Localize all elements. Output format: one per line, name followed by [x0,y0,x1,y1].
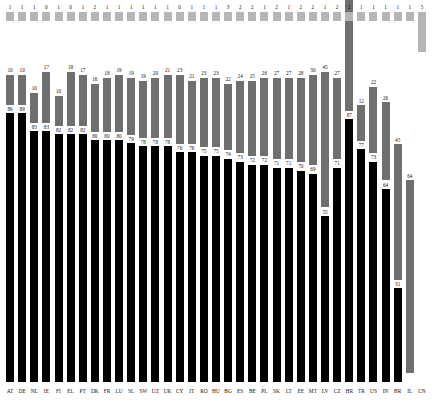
x-tick-label: BR [394,388,401,394]
bar-value-label-middle: 16 [92,77,97,82]
x-tick-label: CZ [334,388,341,394]
bar-value-label-top: 2 [275,5,278,10]
x-tick-label: NL [31,388,38,394]
x-tick-label: ES [237,388,243,394]
bar-value-label-top: 2 [312,5,315,10]
x-tick-label: SW [139,388,147,394]
bar-value-label-top: 1 [118,5,121,10]
bar-column: 74223 [224,0,232,382]
bar-value-label-middle: 21 [165,68,170,73]
x-tick-label: HR [346,388,354,394]
bar-segment-bottom [139,146,147,382]
x-tick-label: BE [249,388,256,394]
bar-segment-top [260,12,268,21]
bar-value-label-top: 2 [299,5,302,10]
x-tick-label: AT [7,388,14,394]
bar-value-label-middle: 28 [298,71,303,76]
bar-segment-bottom [127,143,135,382]
bar-value-label-bottom: 31 [395,282,400,287]
bar-value-label-bottom: 80 [104,134,109,139]
bar-segment-middle [30,93,38,123]
bar-value-label-top: 1 [384,5,387,10]
x-tick-label: CN [418,388,426,394]
bar-value-label-bottom: 73 [371,155,376,160]
bar-segment-top [103,12,111,21]
bar-segment-top [369,12,377,21]
x-tick-label: PL [261,388,267,394]
bar-segment-middle [248,81,256,157]
bar-value-label-top: 1 [215,5,218,10]
bar-value-label-bottom: 89 [20,107,25,112]
bar-segment-middle [273,78,281,160]
bar-value-label-middle: 27 [274,71,279,76]
bar-segment-bottom [18,113,26,382]
bar-segment-top [357,12,365,21]
bar-segment-bottom [67,134,75,382]
x-tick-label: SL [128,388,134,394]
bar-segment-top [79,12,87,21]
x-tick-label: RO [200,388,208,394]
bar-segment-bottom [79,134,87,382]
bar-value-label-middle: 19 [129,71,134,76]
bar-column: 55451 [321,0,329,382]
bar-column: 82171 [79,0,87,382]
x-tick-label: IN [383,388,389,394]
x-axis-tick-labels: ATDENLIEFIELPTDKFRLUSLSWUZUKCYITROHUBGES… [4,388,428,402]
bar-segment-bottom [6,113,14,382]
bar-value-label-bottom: 80 [116,134,121,139]
bar-segment-middle [91,84,99,132]
bar-segment-top [212,12,220,21]
bar-column: 89101 [18,0,26,382]
bar-segment-bottom [309,174,317,382]
x-tick-label: TR [358,388,365,394]
bar-value-label-top: 1 [21,5,24,10]
bar-segment-top [127,12,135,21]
x-tick-label: LT [286,388,292,394]
bar-value-label-middle: 25 [250,74,255,79]
bar-segment-middle [297,78,305,163]
bar-value-label-top: 1 [33,5,36,10]
bar-column: 76211 [188,0,196,382]
bar-segment-middle [42,72,50,123]
bar-segment-bottom [212,156,220,383]
bar-value-label-top: 1 [263,5,266,10]
x-tick-label: IL [407,388,412,394]
bar-segment-top [285,12,293,21]
bar-column: 72261 [260,0,268,382]
bar-segment-top [139,12,147,21]
bar-value-label-middle: 45 [395,138,400,143]
x-tick-label: US [370,388,377,394]
bar-segment-middle [176,75,184,144]
bar-value-label-bottom: 80 [92,134,97,139]
bar-value-label-top: 2 [239,5,242,10]
bar-value-label-bottom: 75 [201,149,206,154]
bar-segment-bottom [345,119,353,382]
bar-value-label-top: 0 [69,5,72,10]
bar-value-label-middle: 10 [56,89,61,94]
bar-value-label-top: 1 [409,5,412,10]
bar-segment-bottom [188,152,196,382]
bar-value-label-bottom: 77 [359,143,364,148]
bar-column: 83170 [42,0,50,382]
bar-value-label-bottom: 72 [250,158,255,163]
bar-value-label-bottom: 74 [226,152,231,157]
bar-value-label-bottom: 76 [189,146,194,151]
bar-segment-top [188,12,196,21]
bar-column: 87672 [345,0,353,382]
bar-column: 73221 [369,0,377,382]
bar-segment-top [224,12,232,21]
bar-segment-middle [164,75,172,138]
bar-segment-middle [260,78,268,157]
bar-segment-top [42,12,50,21]
bar-segment-bottom [91,140,99,382]
bar-column: 5 [418,0,426,382]
bar-value-label-bottom: 78 [165,140,170,145]
x-tick-label: LV [322,388,329,394]
bar-segment-top [6,12,14,21]
bar-segment-top [248,12,256,21]
bar-column: 89101 [6,0,14,382]
bar-value-label-bottom: 73 [238,155,243,160]
bar-segment-bottom [115,140,123,382]
bar-value-label-bottom: 89 [7,107,12,112]
bar-segment-middle [285,78,293,160]
